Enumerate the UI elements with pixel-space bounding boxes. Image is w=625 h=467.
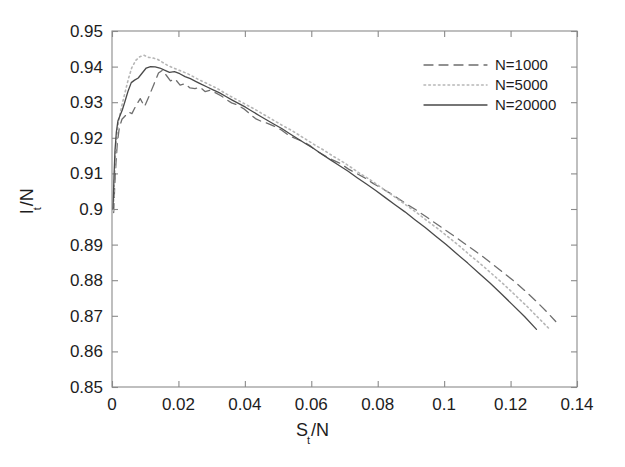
y-axis-tick-label: 0.86 [70, 343, 103, 360]
y-axis-label: It/N [17, 161, 40, 241]
chart-figure: 0.850.860.870.880.890.90.910.920.930.940… [0, 0, 625, 467]
y-axis-tick-label: 0.9 [79, 201, 103, 218]
y-axis-tick-label: 0.91 [70, 165, 103, 182]
x-axis-label: St/N [0, 420, 625, 443]
y-axis-tick-label: 0.92 [70, 130, 103, 147]
y-axis-tick-label: 0.93 [70, 94, 103, 111]
legend-entry-label: N=1000 [495, 57, 548, 72]
x-axis-label-subscript: t [307, 434, 310, 446]
data-series-group [113, 55, 556, 329]
y-axis-tick-label: 0.89 [70, 237, 103, 254]
y-axis-tick-label: 0.88 [70, 272, 103, 289]
y-axis-tick-label: 0.95 [70, 23, 103, 40]
x-axis-tick-label: 0.14 [537, 396, 617, 413]
data-series-line [113, 67, 536, 330]
legend-entry-label: N=5000 [495, 77, 548, 92]
y-axis-label-tail: /N [17, 188, 37, 206]
y-axis-tick-label: 0.85 [70, 379, 103, 396]
data-series-line [113, 55, 549, 328]
x-axis-label-tail: /N [311, 420, 329, 440]
y-axis-tick-label: 0.94 [70, 59, 103, 76]
y-axis-tick-label: 0.87 [70, 308, 103, 325]
y-axis-label-subscript: t [30, 207, 42, 210]
data-series-line [114, 70, 556, 321]
legend-entry-label: N=20000 [495, 97, 556, 112]
legend-line-samples [424, 65, 487, 105]
